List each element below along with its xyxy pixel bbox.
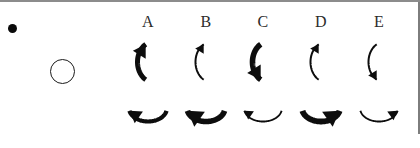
column-label-e: E xyxy=(367,14,391,30)
column-label-a: A xyxy=(136,14,160,30)
rotation-arrows-panel: ABCDE xyxy=(0,0,420,148)
rotation-arrow-top-a xyxy=(120,34,176,90)
column-label-c: C xyxy=(251,14,275,30)
open-circle-marker xyxy=(50,59,75,84)
rotation-arrow-top-e xyxy=(351,34,407,90)
rotation-arrow-bottom-d xyxy=(293,88,349,144)
column-label-d: D xyxy=(309,14,333,30)
rotation-arrow-bottom-e xyxy=(351,88,407,144)
rotation-arrow-bottom-b xyxy=(178,88,234,144)
rotation-arrow-bottom-a xyxy=(120,88,176,144)
panel-top-border xyxy=(0,0,420,2)
filled-dot-marker xyxy=(8,24,17,33)
column-label-b: B xyxy=(194,14,218,30)
rotation-arrow-top-b xyxy=(178,34,234,90)
rotation-arrow-top-c xyxy=(235,34,291,90)
rotation-arrow-bottom-c xyxy=(235,88,291,144)
rotation-arrow-top-d xyxy=(293,34,349,90)
